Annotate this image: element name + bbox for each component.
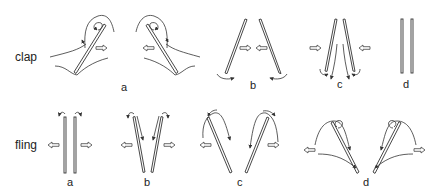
clap-panel-d: d — [401, 19, 413, 90]
row-label-fling: fling — [15, 138, 37, 152]
panel-label: b — [250, 79, 256, 91]
flow-arrow — [270, 74, 287, 79]
flow-arrow — [75, 112, 81, 116]
wing — [331, 122, 359, 174]
clap-panel-c: c — [310, 19, 370, 90]
wing — [343, 19, 355, 71]
flow-arrow — [331, 44, 337, 79]
wing — [74, 117, 76, 173]
panel-label: d — [363, 176, 369, 188]
flow-line — [166, 44, 200, 57]
flow-line — [50, 44, 86, 57]
wing — [64, 117, 66, 173]
fling-panel-a: a — [48, 112, 92, 188]
wing — [259, 19, 281, 74]
panel-label: a — [67, 176, 74, 188]
clap-panel-b: b — [217, 19, 287, 91]
panel-label: d — [403, 78, 409, 90]
panel-label: a — [121, 81, 128, 93]
clap-fling-diagram: clap fling a b — [0, 0, 442, 194]
panel-label: b — [144, 176, 150, 188]
wing — [245, 117, 269, 173]
fling-panel-b: b — [121, 113, 175, 188]
flow-line — [55, 66, 77, 75]
wing — [401, 19, 403, 73]
wing — [325, 19, 337, 71]
fling-panel-d: d — [304, 121, 425, 188]
clap-panel-a: a — [50, 15, 200, 93]
row-label-clap: clap — [15, 50, 37, 64]
flow-arrow — [59, 112, 65, 116]
panel-label: c — [337, 78, 343, 90]
flow-line — [175, 66, 195, 75]
flow-arrow — [217, 74, 234, 79]
fling-panel-c: c — [200, 110, 279, 188]
flow-arrow — [343, 44, 349, 79]
wing — [411, 19, 413, 73]
vortex — [150, 23, 158, 30]
vortex — [94, 23, 102, 30]
wing — [225, 19, 247, 74]
panel-label: c — [237, 176, 243, 188]
